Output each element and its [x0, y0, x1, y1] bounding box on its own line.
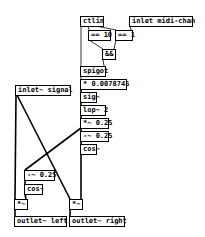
inlet-port[interactable]: [80, 92, 85, 93]
inlet-port[interactable]: [80, 118, 85, 119]
object-box-mul-l[interactable]: *~: [14, 199, 28, 210]
inlet-port[interactable]: [80, 144, 85, 145]
object-label: ctlin: [83, 17, 104, 25]
object-label: &&: [105, 50, 113, 58]
object-box-sig[interactable]: sig~: [80, 92, 97, 103]
inlet-port[interactable]: [80, 131, 85, 132]
object-label: sig~: [83, 93, 100, 101]
object-label: -~ 0.25: [83, 132, 113, 140]
object-label: == 10: [91, 31, 112, 39]
inlet-port[interactable]: [115, 30, 120, 31]
outlet-port[interactable]: [80, 102, 85, 103]
object-box-eq1[interactable]: == 1: [115, 30, 133, 41]
inlet-port[interactable]: [102, 49, 107, 50]
inlet-port[interactable]: [80, 66, 85, 67]
outlet-port[interactable]: [80, 89, 85, 90]
inlet-port[interactable]: [14, 216, 19, 217]
inlet-port[interactable]: [69, 216, 74, 217]
inlet-port[interactable]: [80, 105, 85, 106]
object-label: == 1: [118, 31, 135, 39]
object-label: -~ 0.25: [27, 171, 57, 179]
outlet-port[interactable]: [15, 95, 20, 96]
object-box-mul-const[interactable]: * 0.0078745: [80, 79, 127, 90]
object-box-sub-025-r[interactable]: -~ 0.25: [80, 131, 109, 142]
outlet-port[interactable]: [80, 154, 85, 155]
outlet-port[interactable]: [80, 115, 85, 116]
object-box-mul-025[interactable]: *~ 0.25: [80, 118, 109, 129]
outlet-port[interactable]: [102, 59, 107, 60]
object-label: spigot: [83, 67, 108, 75]
object-label: cos~: [83, 145, 100, 153]
object-box-inlet-signal[interactable]: inlet~ signal: [15, 85, 71, 96]
inlet-port[interactable]: [69, 199, 74, 200]
outlet-port[interactable]: [14, 209, 19, 210]
outlet-port[interactable]: [80, 26, 85, 27]
object-box-ctlin[interactable]: ctlin: [80, 16, 104, 27]
object-box-outlet-left[interactable]: outlet~ left: [14, 216, 67, 227]
outlet-port[interactable]: [24, 180, 29, 181]
object-box-mul-r[interactable]: *~: [69, 199, 83, 210]
object-label: * 0.0078745: [83, 80, 129, 88]
outlet-port[interactable]: [69, 209, 74, 210]
outlet-port[interactable]: [129, 26, 134, 27]
inlet-port[interactable]: [24, 170, 29, 171]
object-box-spigot[interactable]: spigot: [80, 66, 106, 77]
outlet-port[interactable]: [24, 194, 29, 195]
object-label: outlet~ left: [17, 217, 68, 225]
outlet-port[interactable]: [80, 128, 85, 129]
object-box-eq10[interactable]: == 10: [88, 30, 111, 41]
patch-canvas[interactable]: ctlininlet midi-chan== 10== 1&&spigot* 0…: [0, 0, 205, 237]
object-box-inlet-midi-chan[interactable]: inlet midi-chan: [129, 16, 193, 27]
inlet-port[interactable]: [80, 79, 85, 80]
patch-cord-mul_025-to-sub_025_l[interactable]: [25, 128, 81, 170]
outlet-port[interactable]: [115, 40, 120, 41]
object-box-lop[interactable]: lop~ 2: [80, 105, 106, 116]
patch-cord-inlet_signal-to-mul_l[interactable]: [15, 95, 16, 199]
object-box-and[interactable]: &&: [102, 49, 116, 60]
object-box-cos-r[interactable]: cos~: [80, 144, 97, 155]
inlet-port[interactable]: [24, 184, 29, 185]
object-label: *~: [72, 200, 80, 208]
inlet-port[interactable]: [14, 199, 19, 200]
object-label: cos~: [27, 185, 44, 193]
object-label: outlet~ right: [72, 217, 127, 225]
inlet-port[interactable]: [88, 30, 93, 31]
patch-cord-eq1-to-and[interactable]: [114, 40, 116, 49]
outlet-port[interactable]: [80, 141, 85, 142]
outlet-port[interactable]: [80, 76, 85, 77]
object-box-cos-l[interactable]: cos~: [24, 184, 43, 195]
object-label: lop~ 2: [83, 106, 108, 114]
outlet-port[interactable]: [88, 40, 93, 41]
object-box-outlet-right[interactable]: outlet~ right: [69, 216, 125, 227]
object-label: *~: [17, 200, 25, 208]
object-label: inlet midi-chan: [132, 17, 195, 25]
object-label: inlet~ signal: [18, 86, 73, 94]
patch-cord-and-to-spigot[interactable]: [103, 59, 104, 66]
inlet-port[interactable]: [80, 16, 85, 17]
patch-cord-eq10-to-and[interactable]: [89, 40, 103, 49]
object-label: *~ 0.25: [83, 119, 113, 127]
object-box-sub-025-l[interactable]: -~ 0.25: [24, 170, 55, 181]
